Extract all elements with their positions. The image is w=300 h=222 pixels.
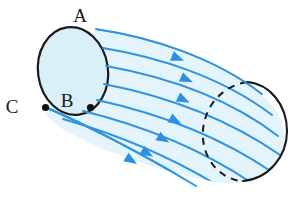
marker-dot-c: [42, 104, 49, 111]
flux-tube-figure: A B C: [0, 0, 300, 222]
label-a: A: [73, 5, 87, 26]
label-c: C: [6, 96, 19, 117]
flux-tube-diagram: A B C: [0, 0, 300, 222]
label-b: B: [61, 90, 74, 111]
marker-dot-b: [87, 104, 94, 111]
